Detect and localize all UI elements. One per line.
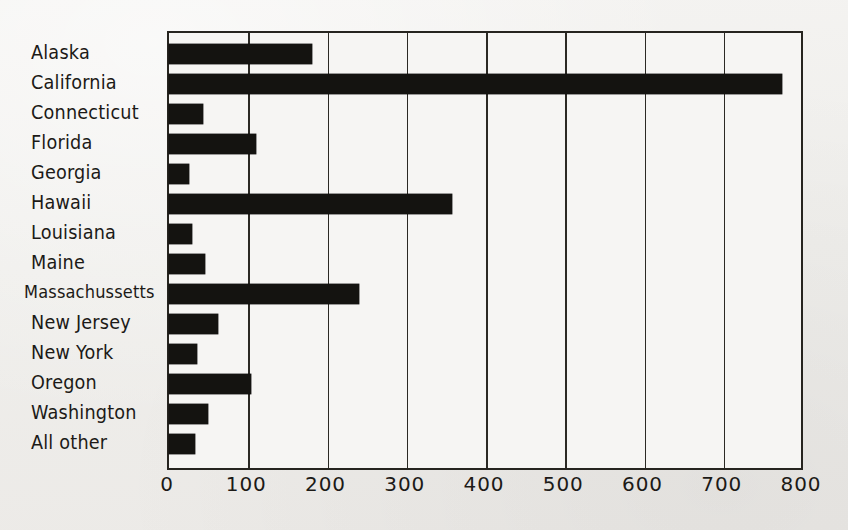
x-tick-label-200: 200 [286,472,366,496]
x-tick-label-0: 0 [127,472,207,496]
bar [169,374,251,394]
category-label-california: California [31,67,117,97]
bar [169,314,218,334]
bar [169,224,192,244]
category-label-hawaii: Hawaii [31,187,91,217]
plot-area [167,31,803,470]
bar [169,344,197,364]
bar [169,74,782,94]
category-label-washington: Washington [31,397,137,427]
bar-row [169,219,801,249]
bar [169,44,312,64]
category-label-louisiana: Louisiana [31,217,116,247]
category-label-all-other: All other [31,427,107,457]
bar [169,284,359,304]
bar-row [169,249,801,279]
bar [169,134,256,154]
bar-row [169,279,801,309]
x-tick-label-100: 100 [206,472,286,496]
x-tick-label-800: 800 [761,472,841,496]
bar-row [169,69,801,99]
bar [169,194,452,214]
category-label-new-york: New York [31,337,113,367]
bar-row [169,309,801,339]
bar-row [169,399,801,429]
x-tick-label-700: 700 [682,472,762,496]
bar-row [169,429,801,459]
category-label-maine: Maine [31,247,85,277]
bar-row [169,159,801,189]
category-label-massachussetts: Massachussetts [24,277,155,307]
bar-row [169,189,801,219]
category-label-new-jersey: New Jersey [31,307,131,337]
bar [169,254,205,274]
bar-row [169,39,801,69]
category-label-florida: Florida [31,127,92,157]
category-axis-labels: AlaskaCaliforniaConnecticutFloridaGeorgi… [0,31,167,470]
bar [169,164,189,184]
x-tick-label-400: 400 [444,472,524,496]
x-axis-tick-labels: 0100200300400500600700800 [0,472,848,506]
x-tick-label-600: 600 [603,472,683,496]
bar [169,404,208,424]
category-label-georgia: Georgia [31,157,102,187]
bar [169,104,203,124]
x-tick-label-300: 300 [365,472,445,496]
x-tick-label-500: 500 [523,472,603,496]
bar-chart-figure: AlaskaCaliforniaConnecticutFloridaGeorgi… [0,0,848,530]
bar-row [169,99,801,129]
bar-row [169,129,801,159]
category-label-connecticut: Connecticut [31,97,139,127]
bar-row [169,339,801,369]
category-label-oregon: Oregon [31,367,97,397]
bar [169,434,195,454]
bar-row [169,369,801,399]
category-label-alaska: Alaska [31,37,90,67]
